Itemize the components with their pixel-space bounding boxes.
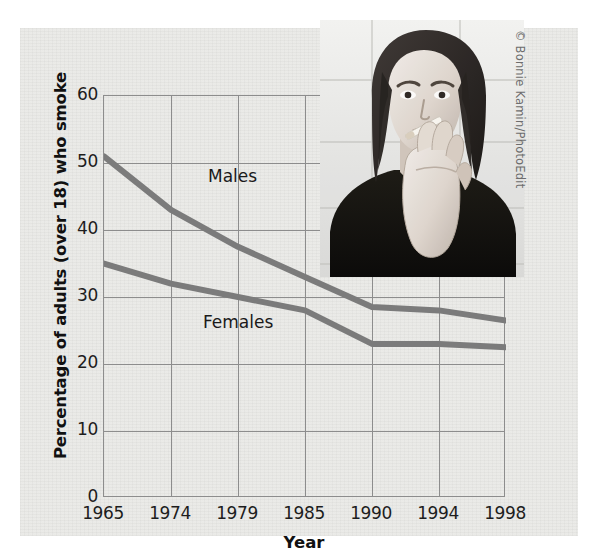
series-label-males: Males xyxy=(208,166,257,186)
series-label-females: Females xyxy=(203,312,273,332)
x-axis-title: Year xyxy=(103,533,505,552)
photo-artwork xyxy=(320,20,524,277)
y-axis-title: Percentage of adults (over 18) who smoke xyxy=(51,56,70,476)
photo-smoking-woman xyxy=(320,20,524,277)
photo-credit: © Bonnie Kamin/PhotoEdit xyxy=(513,30,527,230)
